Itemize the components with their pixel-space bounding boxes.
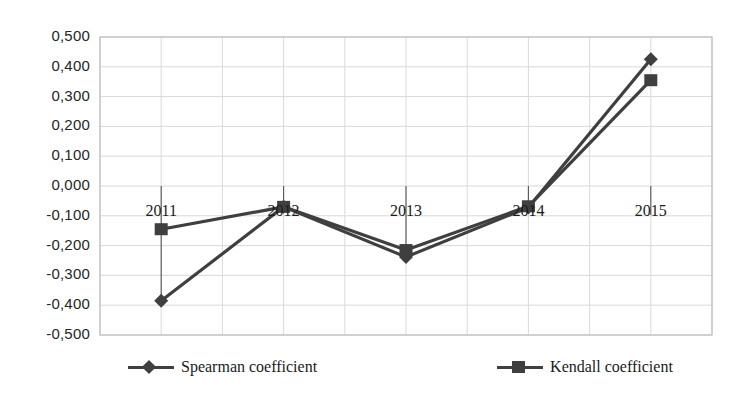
x-axis-tick-label: 2011 — [126, 202, 196, 220]
x-axis-tick-label: 2015 — [616, 202, 686, 220]
square-marker-icon — [497, 360, 543, 374]
legend-item-spearman[interactable]: Spearman coefficient — [128, 358, 317, 376]
data-point-marker-square — [644, 74, 657, 86]
legend-label-spearman: Spearman coefficient — [181, 358, 317, 376]
y-axis-tick-label: -0,400 — [18, 295, 90, 312]
y-axis-tick-label: 0,500 — [18, 27, 90, 44]
y-axis-tick-label: 0,000 — [18, 176, 90, 193]
legend-label-kendall: Kendall coefficient — [550, 358, 673, 376]
y-axis-tick-label: -0,100 — [18, 206, 90, 223]
x-axis-tick-label: 2014 — [493, 202, 563, 220]
y-axis-tick-label: -0,200 — [18, 236, 90, 253]
data-point-marker-square — [400, 244, 413, 256]
chart-container: 0,5000,4000,3000,2000,1000,000-0,100-0,2… — [0, 0, 744, 397]
chart-canvas — [0, 0, 744, 397]
x-axis-tick-label: 2013 — [371, 202, 441, 220]
y-axis-tick-label: 0,300 — [18, 87, 90, 104]
y-axis-tick-label: -0,300 — [18, 265, 90, 282]
legend-item-kendall[interactable]: Kendall coefficient — [497, 358, 673, 376]
x-axis-tick-label: 2012 — [249, 202, 319, 220]
chart-legend: Spearman coefficient Kendall coefficient — [100, 358, 712, 376]
y-axis-tick-label: 0,100 — [18, 146, 90, 163]
diamond-marker-icon — [128, 360, 174, 374]
y-axis-tick-label: -0,500 — [18, 325, 90, 342]
y-axis-tick-label: 0,200 — [18, 116, 90, 133]
data-point-marker-square — [155, 223, 168, 235]
y-axis-tick-label: 0,400 — [18, 57, 90, 74]
chart-background — [0, 0, 744, 397]
